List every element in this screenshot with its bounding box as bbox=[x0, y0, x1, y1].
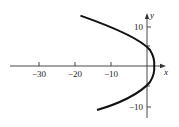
x-tick-label: −20 bbox=[68, 69, 83, 79]
y-tick-label: −10 bbox=[129, 102, 144, 112]
x-axis-label: x bbox=[163, 67, 168, 77]
chart: −30 −20 −10 10 −10 x y bbox=[0, 0, 179, 127]
x-ticks bbox=[39, 62, 111, 66]
x-tick-label: −30 bbox=[32, 69, 47, 79]
y-axis-arrow-icon bbox=[145, 13, 149, 19]
y-ticks bbox=[147, 27, 151, 107]
y-axis-label: y bbox=[149, 10, 154, 20]
y-tick-label: 10 bbox=[134, 22, 144, 32]
parabola-curve bbox=[80, 16, 154, 110]
x-tick-label: −10 bbox=[104, 69, 119, 79]
